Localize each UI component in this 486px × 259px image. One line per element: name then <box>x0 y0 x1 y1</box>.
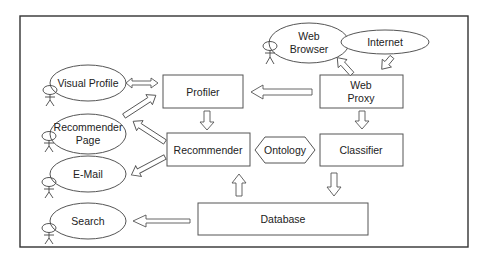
database-label: Database <box>261 213 306 225</box>
node-recommender-page: Recommender Page <box>50 114 126 154</box>
node-database: Database <box>198 203 368 235</box>
node-email: E-Mail <box>50 156 126 192</box>
web-proxy-label-line2: Proxy <box>348 92 376 104</box>
arrow-icon <box>251 85 312 99</box>
arrow-icon <box>327 173 341 196</box>
internet-label: Internet <box>367 36 403 48</box>
node-visual-profile: Visual Profile <box>50 65 126 101</box>
node-ontology: Ontology <box>255 137 315 163</box>
web-browser-label-line1: Web <box>298 30 320 42</box>
classifier-label: Classifier <box>339 144 383 156</box>
arrow-icon <box>133 215 190 227</box>
arrow-icon <box>232 174 246 196</box>
node-web-proxy: Web Proxy <box>320 75 403 108</box>
search-label: Search <box>71 215 104 227</box>
profiler-label: Profiler <box>186 86 220 98</box>
email-label: E-Mail <box>73 168 103 180</box>
visual-profile-label: Visual Profile <box>57 77 118 89</box>
arrow-icon <box>200 111 214 130</box>
web-browser-label-line2: Browser <box>290 43 329 55</box>
arrow-icon <box>130 116 168 147</box>
architecture-diagram: Visual Profile Recommender Page E-Mail S… <box>0 0 486 259</box>
node-search: Search <box>50 203 126 239</box>
recommender-page-label-line2: Page <box>76 134 101 146</box>
arrow-icon <box>121 90 159 121</box>
recommender-label: Recommender <box>174 144 243 156</box>
ontology-label: Ontology <box>264 144 307 156</box>
node-web-browser: Web Browser <box>269 23 349 63</box>
node-classifier: Classifier <box>320 134 403 166</box>
arrow-icon <box>129 152 168 180</box>
web-proxy-label-line1: Web <box>350 79 372 91</box>
node-internet: Internet <box>341 30 429 54</box>
recommender-page-label-line1: Recommender <box>54 121 123 133</box>
node-profiler: Profiler <box>163 75 243 108</box>
arrow-icon <box>377 53 396 73</box>
arrow-icon <box>355 111 369 129</box>
bidirectional-arrow-icon <box>126 78 158 88</box>
node-recommender: Recommender <box>167 133 250 166</box>
